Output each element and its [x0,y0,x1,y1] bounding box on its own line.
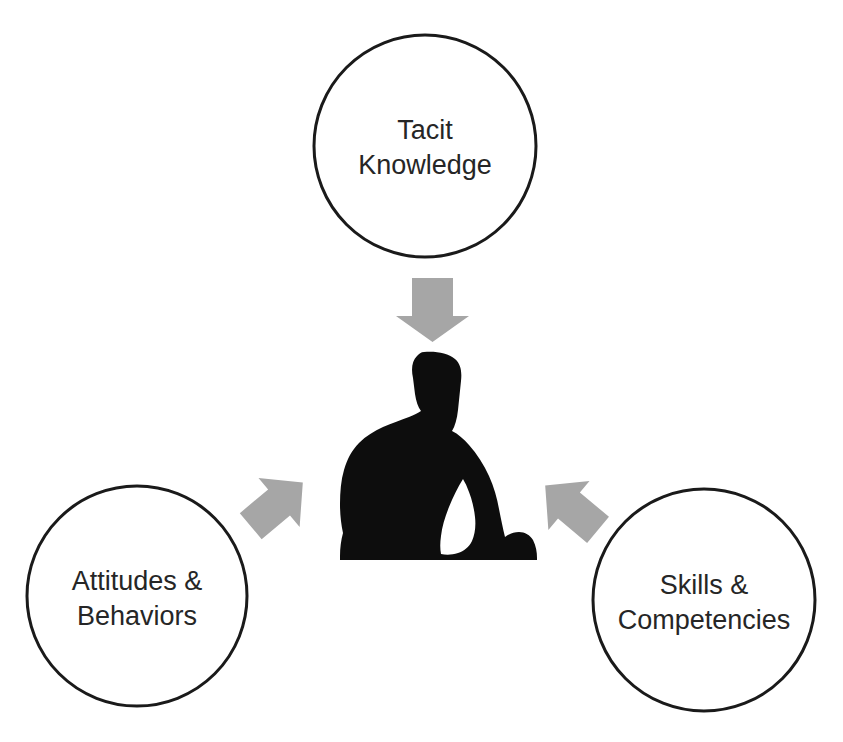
arrow-left-up-right-icon [230,458,323,551]
arrow-top-down-icon [396,278,469,342]
skills-competencies-label-line1: Skills & [660,570,749,600]
tacit-knowledge-circle[interactable] [314,35,536,257]
diagram-graphic: Tacit Knowledge Attitudes & Behaviors Sk… [0,0,843,742]
attitudes-behaviors-label-line2: Behaviors [77,601,197,631]
arrow-right-up-left-icon [525,461,619,554]
tacit-knowledge-label-line1: Tacit [397,115,453,145]
node-attitudes-behaviors[interactable]: Attitudes & Behaviors [27,486,247,706]
attitudes-behaviors-label-line1: Attitudes & [72,566,203,596]
person-silhouette-icon [340,352,537,560]
skills-competencies-label-line2: Competencies [618,605,791,635]
tacit-knowledge-label-line2: Knowledge [358,150,492,180]
node-tacit-knowledge[interactable]: Tacit Knowledge [314,35,536,257]
node-skills-competencies[interactable]: Skills & Competencies [593,489,815,711]
diagram-canvas: Tacit Knowledge Attitudes & Behaviors Sk… [0,0,843,742]
